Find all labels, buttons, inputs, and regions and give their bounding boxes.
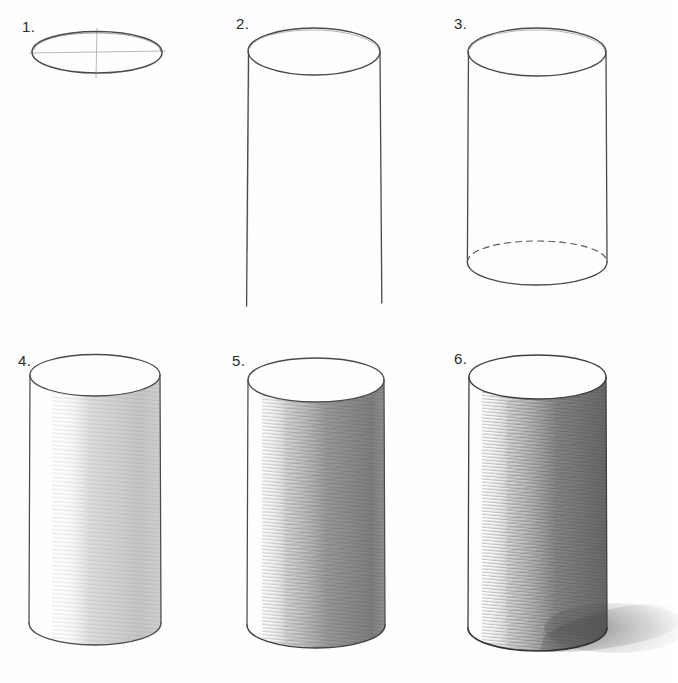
top-ellipse-outline — [248, 358, 384, 402]
top-ellipse-outline — [30, 355, 160, 397]
side-contour-lines — [247, 52, 382, 306]
step-1-label: 1. — [22, 18, 36, 35]
step-2-label: 2. — [236, 15, 250, 32]
step-1-figure: 1. — [0, 0, 224, 340]
step-4-figure: 4. — [0, 340, 224, 683]
side-contour-lines — [467, 52, 607, 262]
step-1-drawing — [0, 0, 224, 340]
top-ellipse-outline — [469, 355, 606, 399]
bottom-ellipse-front-edge — [467, 262, 607, 285]
step-3-label: 3. — [454, 15, 468, 32]
step-4-label: 4. — [18, 352, 32, 369]
bottom-ellipse-hidden-edge — [467, 241, 607, 262]
step-5-label: 5. — [232, 352, 246, 369]
step-5-figure: 5. — [224, 340, 448, 683]
step-2-figure: 2. — [224, 0, 448, 340]
step-6-drawing — [448, 340, 678, 683]
step-3-figure: 3. — [448, 0, 672, 340]
guide-lines — [29, 28, 166, 78]
step-4-drawing — [0, 340, 224, 683]
top-ellipse-outline — [248, 28, 380, 75]
step-3-drawing — [448, 0, 672, 340]
step-6-label: 6. — [454, 350, 468, 367]
step-6-figure: 6. — [448, 340, 672, 683]
step-2-drawing — [224, 0, 448, 340]
top-ellipse-outline — [468, 28, 606, 76]
step-5-drawing — [224, 340, 448, 683]
